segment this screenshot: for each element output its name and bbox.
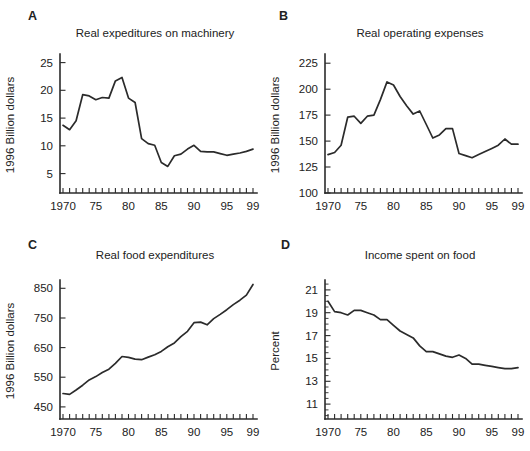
y-tick-label: 225 — [299, 57, 318, 69]
x-tick-label: 85 — [155, 426, 168, 438]
x-tick-label: 90 — [188, 426, 201, 438]
y-tick-label: 25 — [40, 57, 53, 69]
y-tick-label: 11 — [306, 398, 318, 410]
x-tick-label: 95 — [485, 426, 498, 438]
panel-a-chart: 19707580859095995101520251996 Billion do… — [0, 0, 265, 225]
x-tick-label: 99 — [512, 200, 525, 212]
y-tick-label: 13 — [305, 375, 318, 387]
x-tick-label: 95 — [220, 200, 233, 212]
x-tick-label: 1970 — [315, 200, 341, 212]
y-tick-label: 100 — [299, 187, 318, 199]
x-tick-label: 99 — [247, 426, 260, 438]
x-tick-label: 80 — [387, 200, 400, 212]
panel-b-chart: 19707580859095991001251501752002251996 B… — [265, 0, 530, 225]
y-axis-label: 1996 Billion dollars — [269, 76, 281, 173]
x-tick-label: 90 — [453, 200, 466, 212]
x-tick-label: 75 — [354, 426, 367, 438]
panel-b: B Real operating expenses 19707580859095… — [265, 0, 530, 225]
y-tick-label: 150 — [299, 135, 318, 147]
x-tick-label: 75 — [89, 200, 102, 212]
x-tick-label: 75 — [354, 200, 367, 212]
y-tick-label: 15 — [305, 352, 318, 364]
x-tick-label: 1970 — [315, 426, 341, 438]
x-tick-label: 99 — [512, 426, 525, 438]
data-line — [328, 301, 518, 368]
y-tick-label: 21 — [305, 284, 318, 296]
y-tick-label: 200 — [299, 83, 318, 95]
panel-d-chart: 1970758085909599111315171921Percent — [265, 226, 530, 451]
panel-a: A Real expeditures on machinery 19707580… — [0, 0, 265, 225]
y-tick-label: 19 — [305, 307, 318, 319]
y-tick-label: 20 — [40, 84, 53, 96]
x-tick-label: 80 — [387, 426, 400, 438]
y-tick-label: 450 — [34, 401, 53, 413]
x-tick-label: 85 — [420, 426, 433, 438]
y-tick-label: 550 — [34, 371, 53, 383]
x-tick-label: 75 — [89, 426, 102, 438]
y-tick-label: 125 — [299, 161, 318, 173]
x-tick-label: 85 — [420, 200, 433, 212]
y-tick-label: 175 — [299, 109, 318, 121]
panel-c-chart: 19707580859095994505506507508501996 Bill… — [0, 226, 265, 451]
four-panel-line-chart-figure: A Real expeditures on machinery 19707580… — [0, 0, 530, 451]
x-tick-label: 90 — [453, 426, 466, 438]
x-tick-label: 80 — [122, 426, 135, 438]
data-line — [328, 82, 518, 158]
data-line — [63, 78, 253, 167]
y-axis-label: 1996 Billion dollars — [4, 76, 16, 173]
y-axis-label: 1996 Billion dollars — [4, 302, 16, 399]
x-tick-label: 1970 — [50, 200, 76, 212]
y-tick-label: 10 — [40, 140, 53, 152]
data-line — [63, 285, 253, 395]
x-tick-label: 80 — [122, 200, 135, 212]
x-tick-label: 95 — [485, 200, 498, 212]
x-tick-label: 85 — [155, 200, 168, 212]
x-tick-label: 99 — [247, 200, 260, 212]
x-tick-label: 90 — [188, 200, 201, 212]
y-axis-label: Percent — [269, 330, 281, 370]
y-tick-label: 15 — [40, 112, 53, 124]
y-tick-label: 750 — [34, 312, 53, 324]
panel-d: D Income spent on food 19707580859095991… — [265, 226, 530, 451]
panel-c: C Real food expenditures 197075808590959… — [0, 226, 265, 451]
y-tick-label: 650 — [34, 342, 53, 354]
x-tick-label: 1970 — [50, 426, 76, 438]
y-tick-label: 5 — [47, 168, 53, 180]
x-tick-label: 95 — [220, 426, 233, 438]
y-tick-label: 850 — [34, 282, 53, 294]
y-tick-label: 17 — [305, 330, 318, 342]
